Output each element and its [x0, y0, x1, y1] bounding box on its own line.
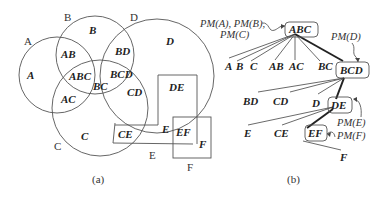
leaf-bc: BC [317, 60, 333, 72]
caption-b: (b) [287, 173, 300, 186]
region-ac: AC [60, 93, 76, 105]
node-bcd: BCD [339, 64, 363, 76]
edge-abc-bc [295, 34, 320, 61]
region-a: A [26, 69, 34, 81]
leaf-ab: AB [268, 60, 284, 72]
node-ef: EF [307, 127, 323, 139]
leaf-a: A [224, 60, 232, 72]
region-ab: AB [60, 48, 76, 60]
edge-bcd-bd [258, 78, 344, 92]
leaf-ce: CE [274, 127, 289, 139]
region-ef: EF [175, 126, 191, 138]
arrowhead-icon [281, 24, 285, 29]
label-set-e: E [149, 149, 156, 161]
leaf-ac: AC [288, 60, 304, 72]
label-set-d: D [130, 11, 138, 23]
arrowhead-icon [353, 97, 357, 102]
leaf-c: C [250, 60, 258, 72]
pm-de-arrow [354, 99, 361, 117]
edge-bcd-de [336, 78, 344, 99]
leaf-f: F [339, 151, 348, 163]
node-de: DE [330, 99, 346, 111]
leaf-cd: CD [273, 95, 288, 107]
arrowhead-icon [355, 58, 360, 62]
region-cd: CD [127, 86, 142, 98]
pm-bcd: PM(D) [330, 31, 361, 43]
caption-a: (a) [92, 173, 105, 186]
region-bcd: BCD [109, 68, 133, 80]
region-abc: ABC [68, 70, 92, 82]
region-bd: BD [114, 45, 130, 57]
node-abc: ABC [288, 23, 312, 35]
pm-ef: PM(F) [336, 130, 366, 142]
tree-diagram: ABC BCD DE EF A B C AB AC BC BD CD D E C… [199, 18, 369, 186]
pm-abc-line2: PM(C) [219, 29, 250, 41]
region-b: B [88, 24, 96, 36]
pm-de: PM(E) [336, 117, 366, 129]
leaf-d: D [311, 97, 320, 109]
edge-ef-f [303, 141, 341, 150]
region-f: F [198, 138, 207, 150]
leaf-bd: BD [242, 95, 258, 107]
venn-diagram: A B C D E F A B C D AB AC ABC BC BD BCD … [19, 11, 214, 186]
region-bc: BC [92, 80, 108, 92]
label-set-a: A [24, 35, 32, 47]
region-de: DE [168, 81, 184, 93]
region-e: E [161, 123, 169, 135]
edge-bcd-cd [290, 78, 344, 92]
label-set-f: F [187, 161, 193, 173]
region-d: D [165, 35, 174, 47]
label-set-b: B [64, 11, 71, 23]
leaf-e: E [243, 127, 251, 139]
leaf-b: B [235, 60, 243, 72]
venn-and-tree-diagram: A B C D E F A B C D AB AC ABC BC BD BCD … [0, 0, 381, 197]
region-ce: CE [118, 128, 133, 140]
label-set-c: C [54, 140, 61, 152]
region-c: C [81, 130, 89, 142]
